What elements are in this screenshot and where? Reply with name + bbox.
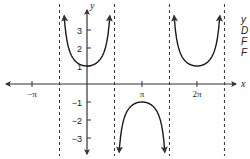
y-tick-label: 3 [77, 26, 82, 36]
y-tick-label: 1 [77, 62, 82, 72]
y-tick-label: 2 [77, 44, 82, 54]
y-tick-label: −3 [72, 134, 82, 144]
asymptotes [60, 4, 225, 156]
x-tick-label: 2π [192, 89, 202, 99]
x-tick-label: −π [27, 89, 37, 99]
y-tick-label: −1 [72, 98, 82, 108]
x-axis-label: x [240, 78, 246, 89]
sec-branch [174, 16, 220, 66]
side-text-3: F [241, 37, 247, 47]
y-tick-label: −2 [72, 116, 82, 126]
sec-branch [119, 102, 165, 152]
sec-graph: −ππ2π321−1−2−3xy [0, 0, 250, 159]
side-text-4: F [241, 48, 247, 58]
x-tick-label: π [140, 89, 145, 99]
y-axis-label: y [89, 0, 95, 11]
tick-labels: −ππ2π321−1−2−3xy [27, 0, 246, 144]
side-text-2: D [241, 26, 248, 36]
side-text-1: y [241, 15, 246, 25]
